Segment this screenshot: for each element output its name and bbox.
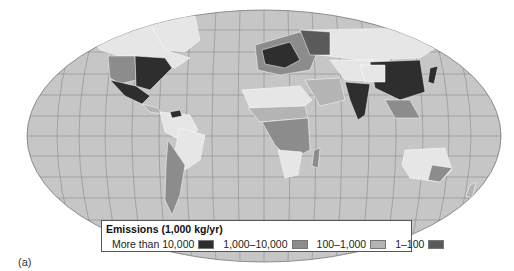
panel-label: (a) [18, 256, 31, 268]
legend-label: More than 10,000 [112, 238, 194, 250]
legend: Emissions (1,000 kg/yr) More than 10,000… [101, 220, 412, 252]
legend-swatch [370, 240, 386, 249]
legend-label: 1,000–10,000 [223, 238, 287, 250]
legend-swatch [198, 240, 214, 249]
legend-label: 1–100 [395, 238, 424, 250]
legend-swatch [292, 240, 308, 249]
legend-title: Emissions (1,000 kg/yr) [106, 223, 223, 235]
legend-swatch [428, 240, 444, 249]
legend-label: 100–1,000 [317, 238, 367, 250]
legend-row: More than 10,000 1,000–10,000 100–1,000 … [112, 238, 444, 250]
legend-item-low: 1–100 [395, 238, 444, 250]
legend-item-medium: 100–1,000 [317, 238, 387, 250]
legend-item-very-high: More than 10,000 [112, 238, 214, 250]
legend-item-high: 1,000–10,000 [223, 238, 307, 250]
